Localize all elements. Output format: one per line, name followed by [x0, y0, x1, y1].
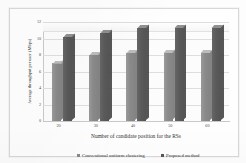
- bar-side: [72, 34, 75, 120]
- bar-conventional: [89, 55, 98, 121]
- x-axis-title: Number of candidate position for the RSs: [43, 133, 229, 140]
- y-tick-label: 2: [39, 102, 41, 106]
- x-tick-label: 20: [57, 124, 61, 128]
- legend-item: Conventional uniform clustering: [77, 153, 145, 159]
- x-tick-label: 50: [168, 124, 172, 128]
- bar-face: [137, 28, 146, 121]
- y-tick-label: 4: [39, 86, 41, 90]
- y-tick-label: 12: [37, 20, 41, 24]
- chart-legend: Conventional uniform clusteringProposed …: [43, 151, 233, 160]
- chart-figure: Average throughput per user (Mbps) 02468…: [0, 0, 246, 163]
- bar-side: [221, 25, 224, 120]
- bar-face: [201, 53, 210, 121]
- legend-item: Proposed method: [161, 153, 200, 159]
- bar-conventional: [201, 53, 210, 121]
- bar-side: [109, 30, 112, 120]
- bar-proposed: [100, 33, 109, 121]
- bar-face: [89, 55, 98, 121]
- bar-side: [146, 25, 149, 120]
- bar-face: [63, 37, 72, 121]
- y-tick-label: 10: [37, 36, 41, 40]
- y-tick-label: 0: [39, 119, 41, 123]
- bar-face: [126, 53, 135, 121]
- y-tick-label: 6: [39, 69, 41, 73]
- bar-conventional: [126, 53, 135, 121]
- bar-proposed: [63, 37, 72, 121]
- bar-group: [80, 22, 117, 121]
- x-tick-label: 40: [131, 124, 135, 128]
- bar-face: [100, 33, 109, 121]
- square-marker: [77, 154, 80, 157]
- legend-label: Conventional uniform clustering: [82, 153, 145, 159]
- legend-label: Proposed method: [166, 153, 199, 159]
- y-tick-label: 8: [39, 53, 41, 57]
- y-axis-title: Average throughput per user (Mbps): [25, 22, 35, 121]
- bar-conventional: [164, 53, 173, 121]
- square-marker: [161, 154, 164, 157]
- bar-group: [192, 22, 229, 121]
- bar-face: [52, 63, 61, 121]
- bar-conventional: [52, 63, 61, 121]
- bar-proposed: [175, 28, 184, 121]
- bar-group: [155, 22, 192, 121]
- plot-area: 024681012 2030405060: [43, 22, 229, 121]
- bar-face: [212, 28, 221, 121]
- x-tick-label: 60: [205, 124, 209, 128]
- x-tick-label: 30: [94, 124, 98, 128]
- bar-face: [164, 53, 173, 121]
- bar-group: [117, 22, 154, 121]
- bar-proposed: [212, 28, 221, 121]
- bar-proposed: [137, 28, 146, 121]
- figure-frame: Average throughput per user (Mbps) 02468…: [9, 8, 239, 157]
- bar-face: [175, 28, 184, 121]
- bar-group: [43, 22, 80, 121]
- bar-side: [183, 25, 186, 120]
